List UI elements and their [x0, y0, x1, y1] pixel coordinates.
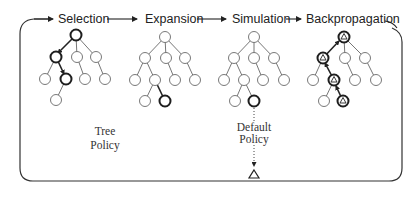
tree-selection — [40, 30, 111, 106]
tree-node — [130, 75, 141, 86]
tree-node — [360, 53, 371, 64]
simulated-node — [249, 96, 260, 107]
tree-node — [350, 75, 361, 86]
tree-node — [249, 32, 260, 43]
tree-node — [40, 74, 51, 85]
tree-node — [170, 75, 181, 86]
tree-node-with-value — [339, 32, 350, 43]
tree-node — [269, 53, 280, 64]
tree-node — [91, 52, 102, 63]
tree-node — [308, 75, 319, 86]
tree-node — [51, 52, 62, 63]
tree-node — [160, 32, 171, 43]
tree-node — [258, 75, 269, 86]
tree-node — [51, 95, 62, 106]
tree-node — [249, 53, 260, 64]
tree-expansion — [130, 32, 201, 107]
tree-node — [230, 96, 241, 107]
tree-policy-label-line2: Policy — [90, 139, 120, 152]
tree-node — [239, 75, 250, 86]
tree-node — [319, 96, 330, 107]
tree-node-with-value — [318, 53, 329, 64]
tree-node — [71, 30, 82, 41]
stage-label-selection: Selection — [58, 12, 109, 26]
tree-node — [279, 75, 290, 86]
tree-node — [161, 53, 172, 64]
expanded-node — [160, 96, 171, 107]
tree-node — [229, 53, 240, 64]
tree-policy-label-line1: Tree — [95, 125, 116, 137]
terminal-triangle-icon — [249, 170, 259, 178]
tree-node — [180, 53, 191, 64]
default-policy-label-line2: Policy — [239, 133, 269, 146]
tree-backpropagation — [308, 32, 382, 107]
tree-simulation — [219, 32, 290, 179]
tree-node-with-value — [338, 96, 349, 107]
tree-node — [150, 75, 161, 86]
tree-node — [190, 75, 201, 86]
default-policy-label-line1: Default — [237, 121, 272, 133]
tree-node — [80, 74, 91, 85]
stage-label-backpropagation: Backpropagation — [306, 12, 400, 26]
tree-node — [72, 52, 83, 63]
tree-node-with-value — [329, 75, 340, 86]
tree-node — [100, 74, 111, 85]
stage-label-simulation: Simulation — [232, 12, 290, 26]
stage-label-expansion: Expansion — [145, 12, 203, 26]
tree-node — [219, 75, 230, 86]
tree-node — [140, 96, 151, 107]
tree-node — [340, 53, 351, 64]
mcts-diagram: Selection Expansion Simulation Backpropa… — [0, 0, 417, 197]
tree-node — [371, 75, 382, 86]
tree-node — [140, 53, 151, 64]
tree-node — [61, 74, 72, 85]
